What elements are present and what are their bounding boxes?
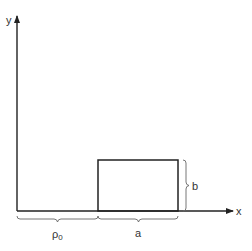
brace-height — [183, 160, 189, 211]
diagram-canvas: y x b ρ0 a — [0, 0, 252, 251]
brace-offset — [17, 216, 98, 222]
offset-label: ρ0 — [52, 228, 63, 242]
height-label: b — [192, 180, 198, 192]
y-axis-label: y — [6, 14, 12, 26]
rectangle — [98, 160, 178, 211]
x-axis-label: x — [236, 205, 242, 217]
width-label: a — [135, 227, 142, 239]
brace-width — [98, 216, 178, 222]
